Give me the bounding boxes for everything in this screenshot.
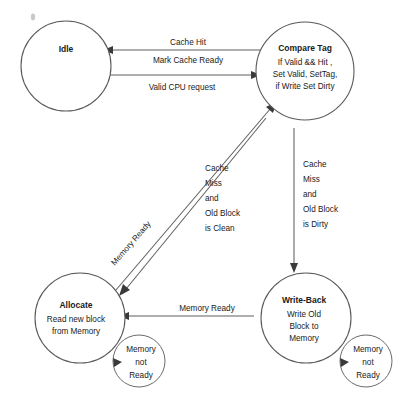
label-dirty-line-2: Miss [303, 175, 320, 184]
state-compare-tag-line-2: Set Valid, SetTag, [273, 70, 337, 79]
allocate-to-compare-tag-line[interactable] [110, 108, 271, 297]
label-memory-ready-diagonal: Memory Ready [110, 219, 154, 267]
self-loop-edges [113, 335, 392, 387]
state-write-back-line-2: Block to [289, 322, 319, 331]
label-write-back-loop-line-3: Ready [356, 371, 381, 380]
label-write-back-loop-line-2: not [362, 358, 374, 367]
label-dirty-line-1: Cache [303, 160, 327, 169]
label-clean-line-4: Old Block [205, 209, 241, 218]
state-write-back-line-3: Memory [289, 334, 319, 343]
label-cache-hit: Cache Hit [170, 38, 207, 47]
label-memory-ready-horizontal: Memory Ready [179, 304, 235, 313]
allocate-self-loop-arrowhead [113, 358, 122, 367]
state-compare-tag-title: Compare Tag [278, 43, 332, 53]
label-mark-cache-ready: Mark Cache Ready [153, 56, 224, 65]
label-write-back-loop-line-1: Memory [353, 345, 383, 354]
label-dirty-line-4: Old Block [303, 205, 339, 214]
state-diagram-svg: Idle Compare Tag If Valid && Hit , Set V… [0, 0, 407, 405]
compare-tag-to-write-back-arrowhead [290, 263, 298, 273]
label-clean-line-1: Cache [205, 164, 229, 173]
label-allocate-loop-line-1: Memory [126, 345, 156, 354]
label-clean-line-3: and [205, 194, 219, 203]
state-idle[interactable] [21, 21, 111, 111]
label-allocate-loop-line-3: Ready [129, 371, 154, 380]
state-idle-title: Idle [59, 44, 74, 54]
state-diagram-canvas: Idle Compare Tag If Valid && Hit , Set V… [0, 0, 407, 405]
state-write-back-title: Write-Back [282, 295, 327, 305]
label-dirty-line-3: and [303, 190, 317, 199]
compare-tag-to-allocate-line[interactable] [126, 118, 266, 289]
state-allocate-line-2: from Memory [52, 327, 101, 336]
state-write-back-line-1: Write Old [287, 310, 321, 319]
state-compare-tag-line-3: if Write Set Dirty [276, 82, 336, 91]
state-compare-tag-line-1: If Valid && Hit , [278, 58, 332, 67]
label-valid-cpu-request: Valid CPU request [149, 83, 216, 92]
label-allocate-loop-line-2: not [135, 358, 147, 367]
state-allocate-line-1: Read new block [47, 315, 106, 324]
state-allocate-title: Allocate [59, 300, 92, 310]
write-back-self-loop-arrowhead [340, 358, 349, 367]
scan-artifact-speck [31, 14, 35, 21]
label-dirty-line-5: is Dirty [303, 220, 329, 229]
label-clean-line-2: Miss [205, 179, 222, 188]
label-clean-line-5: is Clean [205, 224, 235, 233]
